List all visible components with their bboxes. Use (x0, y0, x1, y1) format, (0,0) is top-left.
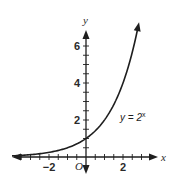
y-axis-arrow-down (83, 165, 90, 174)
y-tick-label: 6 (74, 40, 80, 52)
x-axis-arrow-right (149, 154, 158, 161)
exponential-chart: −22246 x y O y = 2x (0, 0, 172, 185)
tick-marks (21, 46, 141, 160)
origin-label: O (75, 160, 83, 172)
equation-base: y = 2 (119, 112, 142, 123)
y-axis-label: y (82, 14, 88, 26)
equation-exponent: x (142, 111, 146, 118)
x-axis-label: x (160, 151, 166, 163)
x-tick-label: −2 (43, 161, 56, 173)
y-tick-label: 4 (74, 77, 81, 89)
x-axis-arrow-left (12, 154, 21, 161)
curve-arrowhead (134, 22, 141, 32)
equation-label: y = 2x (119, 111, 146, 123)
y-tick-label: 2 (74, 114, 80, 126)
x-tick-label: 2 (120, 161, 126, 173)
y-axis-arrow-up (83, 30, 90, 39)
